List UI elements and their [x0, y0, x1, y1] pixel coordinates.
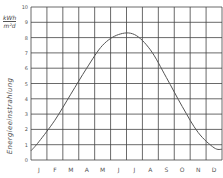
x-tick-label: J [31, 166, 47, 173]
x-tick-label: J [126, 166, 142, 173]
y-axis-label: Energieeinstrahlung [6, 76, 14, 156]
y-tick-label: 0 [18, 157, 28, 163]
x-tick-label: N [190, 166, 206, 173]
y-tick-label: 10 [18, 4, 28, 10]
unit-denominator: m²d [4, 22, 16, 29]
x-tick-label: D [206, 166, 222, 173]
x-tick-label: O [174, 166, 190, 173]
y-tick-label: 1 [18, 142, 28, 148]
chart-grid [31, 7, 222, 160]
x-tick-label: S [158, 166, 174, 173]
y-tick-label: 7 [18, 50, 28, 56]
chart-canvas [0, 0, 223, 178]
x-tick-label: M [95, 166, 111, 173]
y-tick-label: 3 [18, 111, 28, 117]
y-tick-label: 4 [18, 96, 28, 102]
x-tick-label: J [111, 166, 127, 173]
y-tick-label: 9 [18, 19, 28, 25]
y-tick-label: 5 [18, 81, 28, 87]
x-tick-label: F [47, 166, 63, 173]
y-tick-label: 8 [18, 35, 28, 41]
x-tick-label: A [142, 166, 158, 173]
x-tick-label: M [63, 166, 79, 173]
unit-numerator: kWh [3, 14, 16, 22]
unit-label: kWh m²d [3, 14, 16, 29]
y-tick-label: 6 [18, 65, 28, 71]
x-tick-label: A [79, 166, 95, 173]
y-tick-label: 2 [18, 126, 28, 132]
